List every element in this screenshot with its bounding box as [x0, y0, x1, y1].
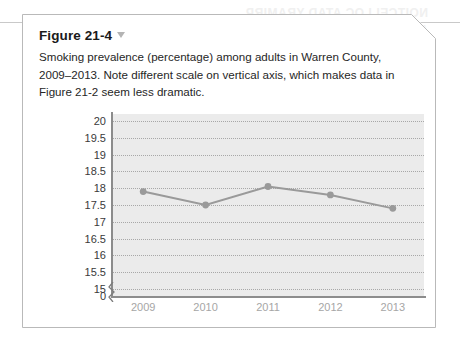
x-axis-tick-label: 2013 — [371, 301, 415, 313]
y-axis-zero-label: 0 — [56, 290, 106, 302]
data-point-marker — [389, 205, 396, 212]
x-axis-tick-label: 2012 — [308, 301, 352, 313]
x-axis-tick-label: 2010 — [184, 301, 228, 313]
figure-title-label: Figure 21-4 — [39, 28, 112, 43]
figure-card: Figure 21-4 Smoking prevalence (percenta… — [22, 14, 436, 328]
x-axis-tick-label: 2009 — [121, 301, 165, 313]
y-axis-tick-label: 17 — [50, 216, 106, 228]
y-axis-tick-label: 20 — [50, 115, 106, 127]
y-axis-tick-label: 17.5 — [50, 199, 106, 211]
y-axis-tick-label: 16.5 — [50, 233, 106, 245]
y-axis-tick-label: 15.5 — [50, 266, 106, 278]
figure-caption: Smoking prevalence (percentage) among ad… — [39, 48, 407, 101]
y-axis-tick-label: 19 — [50, 149, 106, 161]
x-axis-tick-label: 2011 — [246, 301, 290, 313]
y-axis-tick-label: 16 — [50, 249, 106, 261]
line-chart: 2019.51918.51817.51716.51615.515 0 20092… — [50, 114, 426, 314]
y-axis-tick-label: 19.5 — [50, 132, 106, 144]
triangle-down-icon — [117, 32, 125, 38]
data-point-marker — [327, 192, 334, 199]
y-axis-tick-label: 18 — [50, 182, 106, 194]
y-axis-tick-label: 18.5 — [50, 165, 106, 177]
series-smoking-prevalence — [112, 114, 424, 296]
x-axis-line — [111, 296, 426, 298]
data-point-marker — [265, 183, 272, 190]
data-point-marker — [140, 188, 147, 195]
data-point-marker — [202, 202, 209, 209]
figure-title: Figure 21-4 — [39, 28, 125, 43]
